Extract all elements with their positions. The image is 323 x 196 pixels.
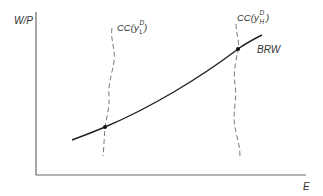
x-axis-label: E: [303, 181, 310, 192]
cc-low-label-sub: L: [140, 28, 144, 35]
cc-low-label-close: ): [143, 22, 147, 33]
brw-label: BRW: [257, 44, 282, 55]
equilibrium-point-low: [103, 125, 107, 129]
cc-high-label-main: CC(: [237, 12, 255, 23]
brw-curve: [72, 35, 262, 140]
cc-high-label-sup: D: [260, 9, 265, 16]
svg-text:CC(y: CC(y: [237, 12, 260, 23]
equilibrium-point-high: [236, 47, 240, 51]
y-axis-label: W/P: [14, 15, 33, 26]
cc-high-label: CC(y D H ): [237, 9, 269, 25]
cc-high-label-sub: H: [260, 18, 265, 25]
cc-high-label-close: ): [265, 12, 269, 23]
diagram: W/P E BRW CC(y D L ) CC(y D H ): [0, 0, 323, 196]
cc-low-label: CC(y D L ): [117, 19, 147, 35]
cc-low-curve: [103, 28, 114, 156]
cc-low-label-main: CC(: [117, 22, 135, 33]
svg-text:CC(y: CC(y: [117, 22, 140, 33]
cc-high-curve: [234, 24, 240, 156]
